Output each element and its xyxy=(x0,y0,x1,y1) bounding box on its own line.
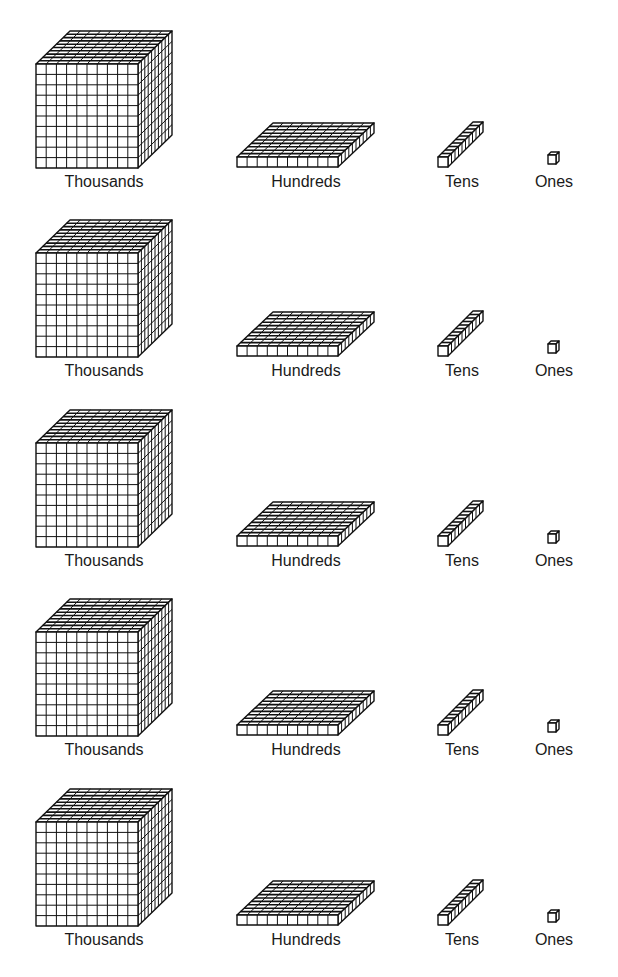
blocks-graphic xyxy=(0,379,618,569)
block-row-5: Thousands Hundreds Tens Ones xyxy=(0,758,618,948)
tens-rod xyxy=(438,690,483,735)
blocks-graphic xyxy=(0,189,618,379)
label-thousands: Thousands xyxy=(64,362,143,380)
ones-cube xyxy=(548,720,559,732)
ones-cube xyxy=(548,910,559,922)
label-tens: Tens xyxy=(445,741,479,759)
hundreds-flat xyxy=(237,312,374,356)
label-ones: Ones xyxy=(535,741,573,759)
label-tens: Tens xyxy=(445,362,479,380)
ones-cube xyxy=(548,152,559,164)
blocks-graphic xyxy=(0,0,618,190)
hundreds-flat xyxy=(237,881,374,925)
hundreds-flat xyxy=(237,691,374,735)
block-row-3: Thousands Hundreds Tens Ones xyxy=(0,379,618,569)
hundreds-flat xyxy=(237,123,374,167)
thousands-cube xyxy=(36,599,172,736)
thousands-cube xyxy=(36,789,172,926)
block-row-1: Thousands Hundreds Tens Ones xyxy=(0,0,618,190)
tens-rod xyxy=(438,311,483,356)
tens-rod xyxy=(438,122,483,167)
label-hundreds: Hundreds xyxy=(271,931,340,949)
blocks-graphic xyxy=(0,568,618,758)
thousands-cube xyxy=(36,410,172,547)
thousands-cube xyxy=(36,31,172,168)
label-tens: Tens xyxy=(445,931,479,949)
label-hundreds: Hundreds xyxy=(271,741,340,759)
tens-rod xyxy=(438,501,483,546)
label-hundreds: Hundreds xyxy=(271,362,340,380)
label-ones: Ones xyxy=(535,931,573,949)
block-row-2: Thousands Hundreds Tens Ones xyxy=(0,189,618,379)
ones-cube xyxy=(548,531,559,543)
hundreds-flat xyxy=(237,502,374,546)
ones-cube xyxy=(548,341,559,353)
block-row-4: Thousands Hundreds Tens Ones xyxy=(0,568,618,758)
label-ones: Ones xyxy=(535,362,573,380)
label-thousands: Thousands xyxy=(64,741,143,759)
thousands-cube xyxy=(36,220,172,357)
label-thousands: Thousands xyxy=(64,931,143,949)
blocks-graphic xyxy=(0,758,618,948)
tens-rod xyxy=(438,880,483,925)
